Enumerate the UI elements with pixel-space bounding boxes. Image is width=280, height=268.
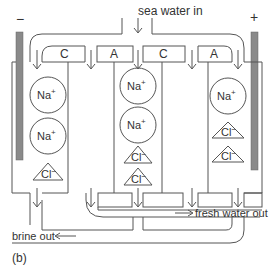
electrodialysis-diagram: sea water in − + C A C A: [0, 0, 280, 268]
cl-ion-label: Cl−: [131, 172, 146, 185]
na-ion-label: Na+: [127, 78, 146, 92]
membrane-c2-label: C: [159, 47, 168, 61]
cathode-sign: −: [16, 11, 24, 27]
outflow-arrows: [33, 188, 242, 207]
top-membrane-row: C A C A: [42, 46, 232, 62]
cl-ion-label: Cl−: [131, 150, 146, 163]
middle-compartment: Na+ Na+ Cl− Cl−: [120, 68, 156, 185]
na-ion-label: Na+: [37, 128, 56, 142]
na-ion-label: Na+: [127, 117, 146, 131]
left-compartment: Na+ Na+ Cl−: [30, 77, 66, 180]
brine-out-label: brine out: [12, 230, 55, 242]
membrane-a2-label: A: [210, 47, 218, 61]
bottom-membrane-row: [98, 193, 262, 207]
cathode-electrode: [16, 32, 23, 160]
anode-sign: +: [250, 9, 258, 25]
na-ion-label: Na+: [217, 88, 236, 102]
brine-outlet: brine out: [12, 230, 76, 242]
anode-electrode: [251, 32, 258, 170]
membrane-c1-label: C: [60, 47, 69, 61]
fresh-water-out-label: fresh water out: [195, 207, 268, 219]
na-ion-label: Na+: [37, 87, 56, 101]
cl-ion-label: Cl−: [221, 125, 236, 138]
sea-water-in-label: sea water in: [138, 4, 203, 18]
cl-ion-label: Cl−: [221, 149, 236, 162]
right-compartment: Na+ Cl− Cl−: [210, 78, 246, 162]
cl-ion-label: Cl−: [41, 167, 56, 180]
panel-label: (b): [12, 251, 27, 265]
membrane-a1-label: A: [110, 47, 118, 61]
